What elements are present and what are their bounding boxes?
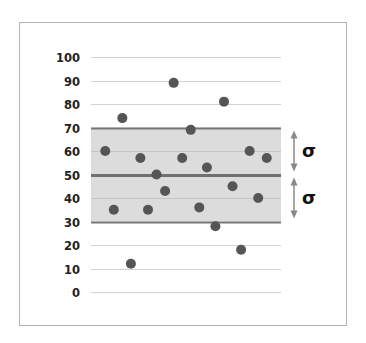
y-tick-label: 50 <box>64 169 80 183</box>
sigma-label: σ <box>302 187 316 208</box>
y-tick-label: 30 <box>64 216 80 230</box>
data-point <box>219 97 229 107</box>
data-point <box>210 221 220 231</box>
y-tick-label: 0 <box>72 286 80 300</box>
data-point <box>177 153 187 163</box>
data-point <box>236 245 246 255</box>
data-point <box>126 259 136 269</box>
data-point <box>117 113 127 123</box>
y-tick-label: 10 <box>64 263 80 277</box>
data-point <box>228 181 238 191</box>
y-tick-label: 60 <box>64 145 80 159</box>
y-tick-label: 40 <box>64 192 80 206</box>
data-point <box>135 153 145 163</box>
data-point <box>152 170 162 180</box>
data-point <box>143 205 153 215</box>
data-point <box>262 153 272 163</box>
y-tick-label: 90 <box>64 75 80 89</box>
y-tick-label: 20 <box>64 239 80 253</box>
y-tick-label: 100 <box>56 51 80 65</box>
data-point <box>253 193 263 203</box>
data-point <box>194 202 204 212</box>
data-point <box>160 186 170 196</box>
y-tick-label: 80 <box>64 98 80 112</box>
data-point <box>169 78 179 88</box>
data-point <box>100 146 110 156</box>
data-point <box>109 205 119 215</box>
sigma-label: σ <box>302 140 316 161</box>
data-point <box>186 125 196 135</box>
data-point <box>245 146 255 156</box>
y-tick-label: 70 <box>64 122 80 136</box>
data-point <box>202 162 212 172</box>
scatter-chart: 0102030405060708090100 σσ <box>0 0 366 343</box>
